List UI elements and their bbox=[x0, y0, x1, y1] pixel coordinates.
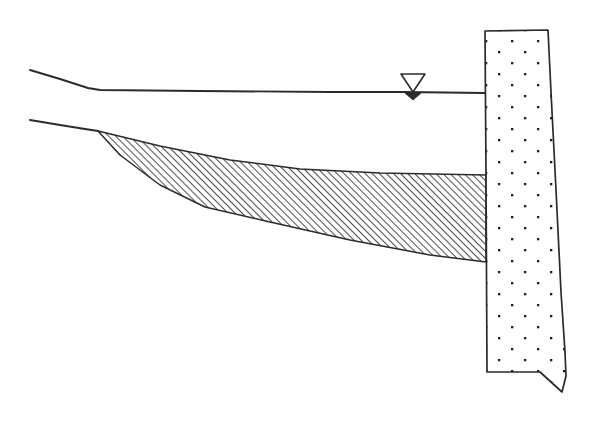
retaining-wall-diagram bbox=[0, 0, 591, 432]
figure-root bbox=[0, 0, 591, 432]
